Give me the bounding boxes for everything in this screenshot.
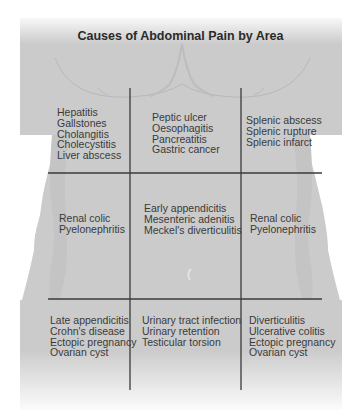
cause-label: Gastric cancer [152, 144, 220, 155]
cause-label: Mesenteric adenitis [144, 214, 242, 225]
cause-label: Ovarian cyst [50, 347, 136, 358]
cause-label: Splenic rupture [246, 126, 322, 137]
cause-label: Meckel's diverticulitis [144, 225, 242, 236]
region-left-iliac: Diverticulitis Ulcerative colitis Ectopi… [249, 315, 335, 358]
cause-label: Gallstones [57, 118, 121, 129]
region-umbilical: Early appendicitis Mesenteric adenitis M… [144, 203, 242, 235]
cause-label: Liver abscess [57, 150, 121, 161]
cause-label: Ulcerative colitis [249, 326, 335, 337]
region-left-lumbar: Renal colic Pyelonephritis [250, 213, 316, 235]
region-hypogastrium: Urinary tract infection Urinary retentio… [142, 315, 241, 347]
region-right-lumbar: Renal colic Pyelonephritis [59, 213, 125, 235]
region-right-hypochondrium: Hepatitis Gallstones Cholangitis Cholecy… [57, 107, 121, 161]
cause-label: Ovarian cyst [249, 347, 335, 358]
cause-label: Urinary retention [142, 326, 241, 337]
cause-label: Pyelonephritis [59, 224, 125, 235]
diagram-title: Causes of Abdominal Pain by Area [0, 29, 361, 43]
region-epigastrium: Peptic ulcer Oesophagitis Pancreatitis G… [152, 112, 220, 155]
abdominal-pain-diagram: Causes of Abdominal Pain by Area Hepatit… [0, 0, 361, 414]
cause-label: Oesophagitis [152, 123, 220, 134]
cause-label: Crohn's disease [50, 326, 136, 337]
cause-label: Splenic infarct [246, 137, 322, 148]
cause-label: Testicular torsion [142, 337, 241, 348]
region-left-hypochondrium: Splenic abscess Splenic rupture Splenic … [246, 115, 322, 147]
region-right-iliac: Late appendicitis Crohn's disease Ectopi… [50, 315, 136, 358]
cause-label: Pyelonephritis [250, 224, 316, 235]
